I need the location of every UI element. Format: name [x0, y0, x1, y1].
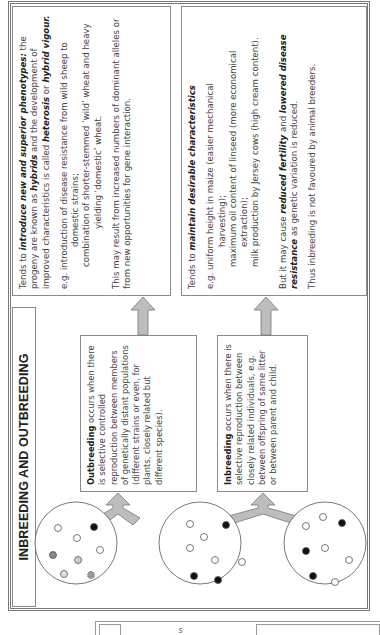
arrow-right-icon [254, 297, 278, 335]
population-circle-related [284, 502, 366, 586]
population-circle-mixed [159, 502, 246, 584]
textbook-page: s INBREEDING AND OUTBREEDING Tends to in… [0, 0, 380, 635]
population-circle-varied [35, 502, 117, 584]
arrow-right-icon [131, 297, 155, 335]
diagram-graphics [0, 0, 380, 635]
